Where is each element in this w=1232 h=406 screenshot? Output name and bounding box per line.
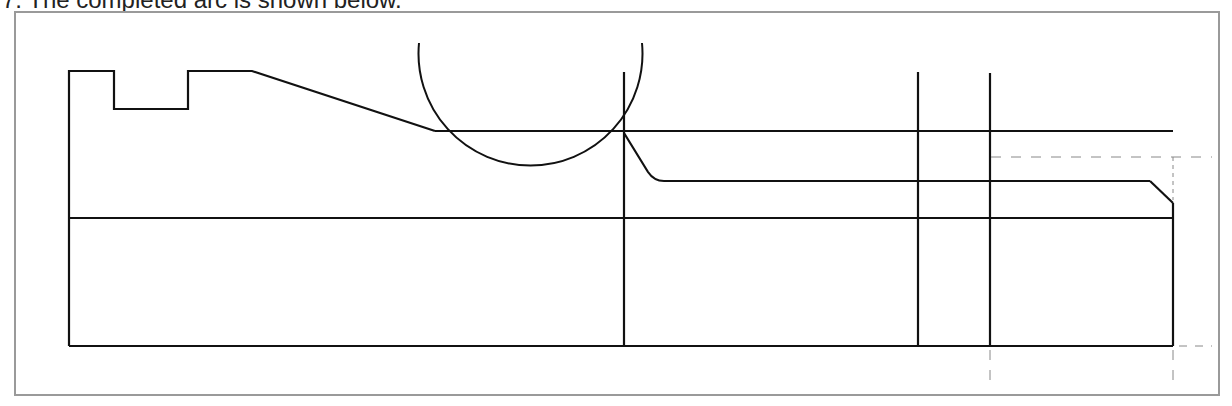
- cad-drawing-canvas: [0, 0, 1232, 406]
- arc-circle: [418, 43, 642, 166]
- vertical-construction-lines: [624, 72, 990, 346]
- part-profile-outline: [69, 71, 1173, 346]
- dashed-reference-lines: [990, 157, 1212, 386]
- horizontal-construction-lines: [69, 131, 1173, 218]
